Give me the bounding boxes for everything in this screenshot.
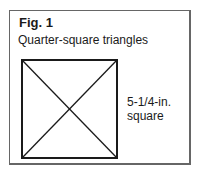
figure-title: Quarter-square triangles bbox=[18, 33, 148, 47]
dimension-size: 5-1/4-in. bbox=[127, 95, 171, 109]
quarter-square-diagram bbox=[21, 59, 119, 160]
dimension-shape: square bbox=[127, 109, 171, 123]
figure-label: Fig. 1 bbox=[19, 15, 53, 30]
dimension-label: 5-1/4-in. square bbox=[127, 95, 171, 123]
